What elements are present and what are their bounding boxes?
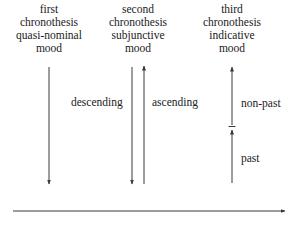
past-label: past — [241, 152, 260, 165]
descending-label: descending — [71, 96, 123, 109]
non-past-label: non-past — [241, 97, 281, 110]
ascending-label: ascending — [152, 96, 198, 109]
arrows-diagram — [0, 0, 292, 226]
